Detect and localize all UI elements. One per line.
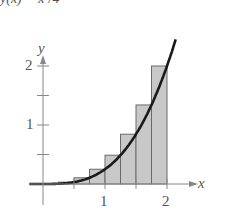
x-axis-label: x <box>198 175 205 192</box>
riemann-rectangle <box>136 105 152 184</box>
y-axis-label: y <box>38 40 45 57</box>
riemann-sum-chart <box>0 0 226 213</box>
y-tick-label-2: 2 <box>25 57 33 74</box>
riemann-rectangle <box>121 134 137 184</box>
riemann-rectangles <box>43 66 167 184</box>
y-tick-label-1: 1 <box>26 116 34 133</box>
x-tick-label-1: 1 <box>100 193 108 210</box>
x-tick-label-2: 2 <box>162 193 170 210</box>
